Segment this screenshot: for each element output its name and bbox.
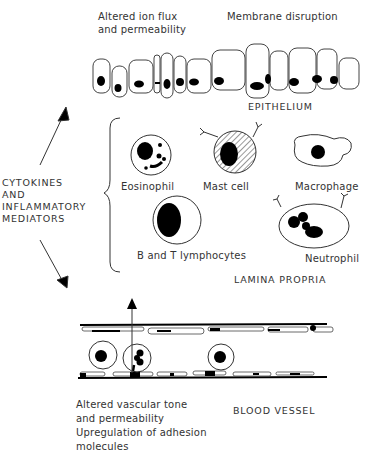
mediator-line: MEDIATORS [2, 213, 86, 225]
eosinophil-cell [131, 135, 171, 175]
lymphocytes-label: B and T lymphocytes [137, 249, 246, 262]
mediators-label: CYTOKINES AND INFLAMMATORY MEDIATORS [2, 177, 86, 225]
effect-line: molecules [76, 440, 207, 454]
effect-line: and permeability [76, 412, 207, 426]
epithelium-effect-right: Membrane disruption [227, 10, 338, 23]
neutrophil-label: Neutrophil [305, 252, 359, 265]
mediator-line: AND [2, 189, 86, 201]
mediator-line: INFLAMMATORY [2, 201, 86, 213]
blood-vessel-title: BLOOD VESSEL [233, 404, 315, 417]
lymphocyte-cell [153, 196, 201, 244]
arrow-up-icon [58, 107, 69, 121]
macrophage-cell [294, 135, 351, 167]
effect-line: and permeability [98, 23, 186, 36]
mast-cell [200, 122, 262, 173]
effect-line: Upregulation of adhesion [76, 426, 207, 440]
neutrophil-cell [273, 193, 349, 248]
lamina-propria-brace [104, 118, 120, 272]
macrophage-label: Macrophage [295, 180, 359, 193]
mast-cell-label: Mast cell [203, 180, 249, 193]
arrow-up-icon [127, 298, 137, 309]
mediator-line: CYTOKINES [2, 177, 86, 189]
effect-line: Altered ion flux [98, 10, 186, 23]
effect-line: Altered vascular tone [76, 398, 207, 412]
epithelium-cells [93, 44, 359, 98]
eosinophil-label: Eosinophil [121, 180, 174, 193]
arrow-down-icon [57, 276, 68, 288]
vessel-effects: Altered vascular tone and permeability U… [76, 398, 207, 454]
lamina-propria-title: LAMINA PROPRIA [234, 273, 326, 286]
blood-vessel [78, 298, 333, 378]
diagram-canvas [0, 0, 367, 458]
epithelium-title: EPITHELIUM [248, 100, 313, 113]
epithelium-effect-left: Altered ion flux and permeability [98, 10, 186, 36]
